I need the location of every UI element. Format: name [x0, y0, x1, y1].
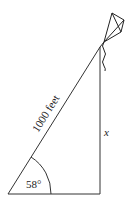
kite-icon — [100, 13, 124, 71]
kite-tail — [103, 42, 106, 71]
angle-label: 58° — [26, 178, 41, 190]
hypotenuse-label: 1000 feet — [30, 93, 62, 134]
right-triangle — [8, 47, 100, 194]
kite-triangle-diagram: 1000 feet 58° x — [0, 0, 129, 207]
opposite-side-label: x — [103, 126, 109, 138]
hypotenuse-line — [8, 47, 100, 194]
